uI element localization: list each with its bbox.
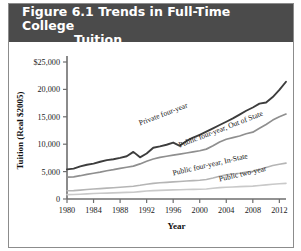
y-axis-title: Tuition (Real $2005) [15,91,25,169]
chart-series-labels: Private four-yearPublic four-year, Out o… [137,100,267,183]
x-tick-label: 2004 [218,206,234,215]
x-tick-label: 1988 [112,206,128,215]
x-tick-label: 2008 [245,206,261,215]
chart-plot-area: 05,00010,00015,00020,000$25,000 19801984… [9,42,293,247]
y-tick-label: $25,000 [33,58,60,67]
series-line [67,82,286,170]
x-axis: 198019841988199219962000200420082012 [59,199,288,215]
x-axis-title: Year [168,221,186,231]
x-tick-label: 2000 [192,206,208,215]
figure-container: Figure 6.1 Trends in Full-Time College T… [0,0,301,251]
x-tick-label: 1984 [85,206,101,215]
x-tick-label: 1996 [165,206,181,215]
y-tick-label: 0 [56,195,60,204]
y-axis: 05,00010,00015,00020,000$25,000 [33,56,67,204]
series-label: Public two-year [218,164,268,184]
x-tick-label: 1980 [59,206,75,215]
figure-title: Figure 6.1 Trends in Full-Time College T… [22,5,272,47]
y-tick-label: 15,000 [37,113,60,122]
x-tick-label: 2012 [271,206,287,215]
line-chart-svg: 05,00010,00015,00020,000$25,000 19801984… [9,42,293,247]
y-tick-label: 10,000 [37,140,60,149]
series-label: Public four-year, Out of State [177,109,264,150]
series-label: Private four-year [137,100,189,127]
y-tick-label: 5,000 [42,168,60,177]
chart-series-lines [67,82,286,195]
y-tick-label: 20,000 [37,85,60,94]
x-tick-label: 1992 [138,206,154,215]
figure-title-line-1: Figure 6.1 Trends in Full-Time College [22,4,230,33]
